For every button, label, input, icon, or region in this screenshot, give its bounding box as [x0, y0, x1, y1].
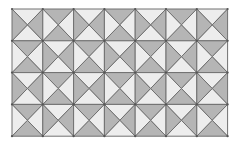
vertex-dot — [196, 103, 198, 105]
vertex-dot — [196, 8, 198, 10]
vertex-dot — [165, 8, 167, 10]
vertex-dot — [196, 135, 198, 137]
vertex-dot — [134, 8, 136, 10]
vertex-dot — [196, 40, 198, 42]
vertex-dot — [42, 72, 44, 74]
vertex-dot — [11, 72, 13, 74]
triangle-tiling-diagram — [0, 0, 244, 146]
vertex-dot — [11, 8, 13, 10]
vertex-dot — [11, 135, 13, 137]
vertex-dot — [103, 8, 105, 10]
vertex-dot — [73, 103, 75, 105]
vertex-dot — [165, 135, 167, 137]
vertex-dot — [73, 135, 75, 137]
vertex-dot — [42, 103, 44, 105]
vertex-dot — [103, 103, 105, 105]
vertex-dot — [42, 40, 44, 42]
vertex-dot — [227, 40, 229, 42]
vertex-dot — [165, 103, 167, 105]
vertex-dot — [42, 135, 44, 137]
vertex-dot — [134, 135, 136, 137]
vertex-dot — [42, 8, 44, 10]
vertex-dot — [227, 72, 229, 74]
vertex-dot — [11, 40, 13, 42]
vertex-dot — [73, 72, 75, 74]
vertex-dot — [134, 103, 136, 105]
vertex-dot — [11, 103, 13, 105]
vertex-dot — [134, 40, 136, 42]
vertex-dot — [227, 135, 229, 137]
vertex-dot — [73, 40, 75, 42]
vertex-dot — [73, 8, 75, 10]
vertex-dot — [103, 40, 105, 42]
vertex-dot — [103, 72, 105, 74]
vertex-dot — [227, 8, 229, 10]
vertex-dot — [103, 135, 105, 137]
vertex-dot — [134, 72, 136, 74]
vertex-dot — [165, 72, 167, 74]
vertex-dot — [165, 40, 167, 42]
vertex-dot — [196, 72, 198, 74]
vertex-dot — [227, 103, 229, 105]
